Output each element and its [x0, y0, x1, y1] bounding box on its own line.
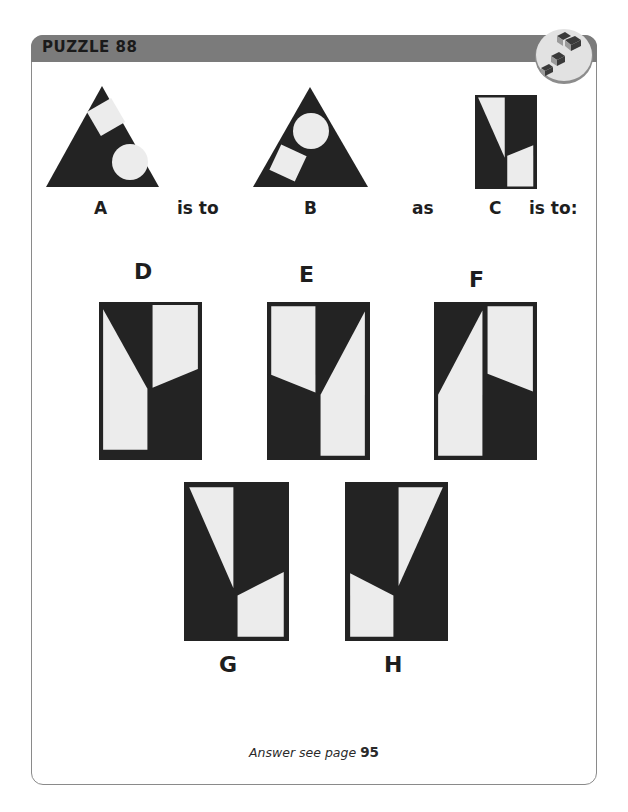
answer-page-number: 95 [360, 744, 379, 760]
label-a: A [94, 198, 107, 218]
option-e[interactable] [267, 302, 370, 460]
option-f[interactable] [434, 302, 537, 460]
option-d[interactable] [99, 302, 202, 460]
option-label-d: D [134, 259, 152, 284]
option-label-f: F [469, 267, 484, 292]
label-c: C [489, 198, 501, 218]
option-label-e: E [299, 262, 314, 287]
label-b: B [304, 198, 317, 218]
figure-c [475, 95, 537, 189]
connector-is-to-colon: is to: [529, 198, 577, 218]
puzzle-title: PUZZLE 88 [42, 38, 137, 56]
option-label-g: G [219, 652, 237, 677]
option-g[interactable] [184, 482, 289, 641]
isometric-blocks-icon [531, 26, 597, 84]
answer-prefix: Answer see page [249, 745, 356, 760]
answer-reference: Answer see page 95 [0, 744, 628, 760]
option-label-h: H [384, 652, 402, 677]
connector-as: as [412, 198, 434, 218]
connector-is-to: is to [177, 198, 219, 218]
option-h[interactable] [345, 482, 448, 641]
